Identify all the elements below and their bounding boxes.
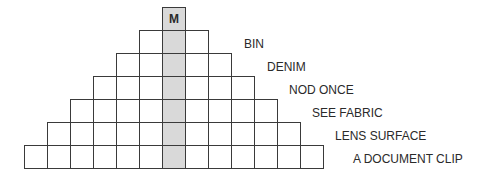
letter-cell[interactable] (47, 145, 71, 169)
letter-cell[interactable] (139, 76, 163, 100)
letter-cell[interactable] (185, 145, 209, 169)
letter-cell[interactable] (139, 122, 163, 146)
letter-cell[interactable] (300, 145, 324, 169)
clue-label: LENS SURFACE (335, 129, 426, 143)
letter-cell[interactable] (116, 76, 140, 100)
top-letter: M (163, 8, 185, 30)
letter-cell[interactable] (185, 99, 209, 123)
letter-cell[interactable] (208, 122, 232, 146)
center-column-cell[interactable] (162, 53, 186, 77)
letter-cell[interactable] (93, 122, 117, 146)
letter-cell[interactable] (254, 99, 278, 123)
letter-cell[interactable] (24, 145, 48, 169)
letter-cell[interactable] (185, 122, 209, 146)
letter-cell[interactable] (185, 30, 209, 54)
letter-cell[interactable] (116, 53, 140, 77)
letter-cell[interactable] (47, 122, 71, 146)
center-column-cell[interactable] (162, 99, 186, 123)
clue-label: DENIM (267, 60, 306, 74)
letter-cell[interactable] (93, 76, 117, 100)
letter-cell[interactable] (116, 122, 140, 146)
letter-pyramid-puzzle: MBINDENIMNOD ONCESEE FABRICLENS SURFACEA… (0, 0, 483, 179)
clue-label: A DOCUMENT CLIP (353, 152, 463, 166)
center-column-cell[interactable]: M (162, 7, 186, 31)
center-column-cell[interactable] (162, 145, 186, 169)
letter-cell[interactable] (93, 145, 117, 169)
center-column-cell[interactable] (162, 122, 186, 146)
letter-cell[interactable] (277, 122, 301, 146)
letter-cell[interactable] (208, 76, 232, 100)
clue-label: BIN (244, 37, 264, 51)
letter-cell[interactable] (231, 76, 255, 100)
clue-label: SEE FABRIC (312, 106, 383, 120)
letter-cell[interactable] (277, 145, 301, 169)
letter-cell[interactable] (208, 145, 232, 169)
letter-cell[interactable] (70, 99, 94, 123)
letter-cell[interactable] (139, 99, 163, 123)
center-column-cell[interactable] (162, 76, 186, 100)
letter-cell[interactable] (139, 30, 163, 54)
letter-cell[interactable] (254, 145, 278, 169)
center-column-cell[interactable] (162, 30, 186, 54)
letter-cell[interactable] (231, 99, 255, 123)
letter-cell[interactable] (208, 99, 232, 123)
letter-cell[interactable] (208, 53, 232, 77)
letter-cell[interactable] (116, 145, 140, 169)
letter-cell[interactable] (185, 76, 209, 100)
letter-cell[interactable] (231, 122, 255, 146)
letter-cell[interactable] (254, 122, 278, 146)
letter-cell[interactable] (116, 99, 140, 123)
letter-cell[interactable] (185, 53, 209, 77)
letter-cell[interactable] (93, 99, 117, 123)
letter-cell[interactable] (139, 53, 163, 77)
letter-cell[interactable] (70, 122, 94, 146)
letter-cell[interactable] (70, 145, 94, 169)
letter-cell[interactable] (139, 145, 163, 169)
letter-cell[interactable] (231, 145, 255, 169)
clue-label: NOD ONCE (289, 83, 354, 97)
